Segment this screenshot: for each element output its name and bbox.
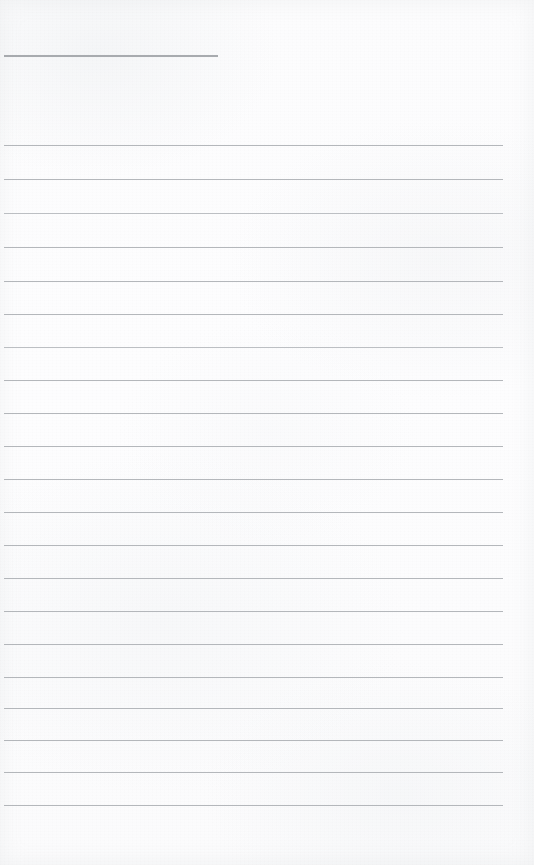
rule-line-21 [4,805,503,806]
rule-line-15 [4,611,503,612]
rule-line-01 [4,145,503,146]
rule-line-12 [4,512,503,513]
rule-line-09 [4,413,503,414]
rule-line-05 [4,281,503,282]
rule-line-13 [4,545,503,546]
scanned-page: Blank ruled notebook page scan [0,0,534,865]
rule-line-03 [4,213,503,214]
rule-line-19 [4,740,503,741]
heading-rule [4,55,218,57]
ruled-lines-layer [0,0,534,865]
rule-line-18 [4,708,503,709]
rule-line-08 [4,380,503,381]
rule-line-02 [4,179,503,180]
rule-line-14 [4,578,503,579]
rule-line-11 [4,479,503,480]
rule-line-07 [4,347,503,348]
rule-line-10 [4,446,503,447]
rule-line-17 [4,677,503,678]
rule-line-16 [4,644,503,645]
rule-line-04 [4,247,503,248]
rule-line-06 [4,314,503,315]
rule-line-20 [4,772,503,773]
